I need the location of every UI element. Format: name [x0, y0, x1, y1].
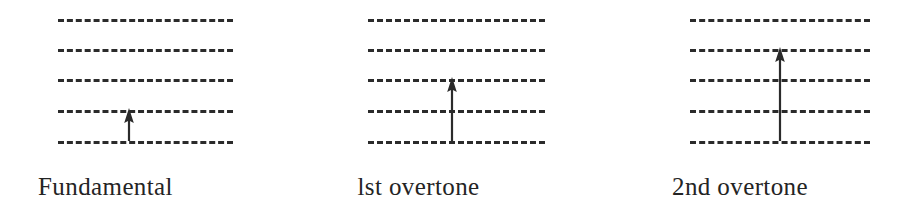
transition-arrow-first-overtone: [368, 0, 545, 160]
energy-levels-fundamental: [58, 0, 233, 160]
panel-label-first-overtone: lst overtone: [330, 172, 507, 202]
energy-levels-first-overtone: [368, 0, 545, 160]
panel-label-fundamental: Fundamental: [18, 172, 193, 202]
energy-levels-second-overtone: [690, 0, 870, 160]
transition-arrow-second-overtone: [690, 0, 870, 160]
panel-label-second-overtone: 2nd overtone: [650, 172, 830, 202]
energy-level-diagram-figure: Fundamental lst overtone 2nd overtone: [0, 0, 916, 219]
transition-arrow-fundamental: [58, 0, 233, 160]
